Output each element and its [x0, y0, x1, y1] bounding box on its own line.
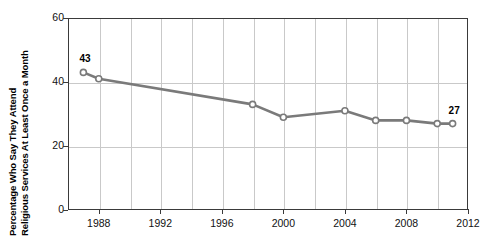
data-point-value-label: 27: [449, 105, 460, 116]
x-tick-label: 1996: [202, 217, 242, 229]
data-point-marker: [373, 117, 379, 123]
data-point-marker: [96, 76, 102, 82]
series-line: [83, 72, 452, 123]
data-point-marker: [450, 121, 456, 127]
data-point-marker: [280, 114, 286, 120]
data-point-marker: [403, 117, 409, 123]
data-point-marker: [342, 108, 348, 114]
x-tick-label: 1992: [140, 217, 180, 229]
x-tick-label: 2000: [263, 217, 303, 229]
data-point-value-label: 43: [79, 53, 90, 64]
x-tick-label: 2004: [325, 217, 365, 229]
data-series-layer: [68, 18, 468, 210]
x-tick-label: 2012: [448, 217, 488, 229]
data-point-marker: [250, 101, 256, 107]
data-point-marker: [434, 121, 440, 127]
x-tick-label: 1988: [79, 217, 119, 229]
data-point-marker: [80, 69, 86, 75]
x-tick-label: 2008: [386, 217, 426, 229]
line-chart: Percentage Who Say They Attend Religious…: [0, 0, 497, 250]
